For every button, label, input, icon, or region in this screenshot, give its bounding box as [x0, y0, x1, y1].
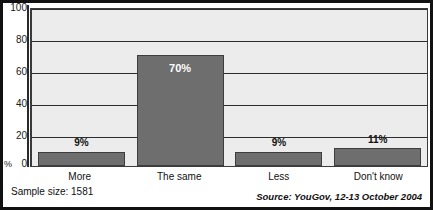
- bar-value-less: 9%: [235, 137, 322, 148]
- source-note: Source: YouGov, 12-13 October 2004: [256, 191, 422, 202]
- bar-the-same[interactable]: 70%: [137, 55, 224, 166]
- y-axis-tick-40: 40: [16, 99, 27, 109]
- plot-area: 9% 70% 9% 11%: [30, 8, 428, 167]
- y-axis-tick-0: 0: [21, 159, 27, 169]
- bar-value-the-same: 70%: [138, 62, 223, 74]
- bar-dont-know[interactable]: [334, 148, 421, 166]
- bar-value-more: 9%: [38, 137, 125, 148]
- bar-slot-more: 9%: [38, 9, 125, 166]
- bar-chart-figure: 100 80 60 40 20 0 % 9% 70%: [0, 0, 433, 210]
- category-label-less: Less: [235, 171, 323, 183]
- bar-slot-dont-know: 11%: [334, 9, 421, 166]
- y-axis-tick-60: 60: [16, 67, 27, 77]
- bar-series: 9% 70% 9% 11%: [32, 9, 427, 166]
- y-axis-tick-100: 100: [10, 3, 27, 13]
- bar-slot-less: 9%: [235, 9, 322, 166]
- y-axis-line: [27, 5, 29, 167]
- y-axis: 100 80 60 40 20 0 %: [3, 3, 30, 169]
- y-axis-tick-80: 80: [16, 35, 27, 45]
- bar-slot-the-same: 70%: [137, 9, 224, 166]
- category-label-more: More: [36, 171, 124, 183]
- x-axis-category-labels: More The same Less Don't know: [30, 169, 428, 185]
- category-label-the-same: The same: [135, 171, 223, 183]
- category-label-dont-know: Don't know: [334, 171, 422, 183]
- bar-value-dont-know: 11%: [334, 134, 421, 145]
- y-axis-tick-20: 20: [16, 131, 27, 141]
- y-axis-unit-label: %: [4, 160, 12, 169]
- sample-size-note: Sample size: 1581: [11, 186, 93, 198]
- bar-less[interactable]: [235, 152, 322, 166]
- bar-more[interactable]: [38, 152, 125, 166]
